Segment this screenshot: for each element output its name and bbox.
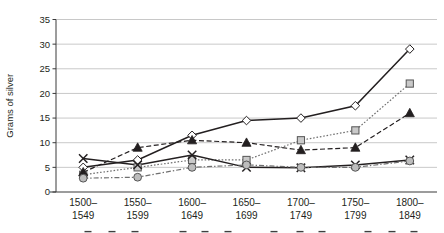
x-tick-label: 1799 (344, 210, 367, 221)
y-tick-label: 5 (45, 162, 50, 173)
x-tick-label: 1700– (287, 197, 315, 208)
marker-square (406, 80, 413, 87)
y-tick-label: 30 (39, 39, 50, 50)
marker-triangle (242, 138, 251, 146)
line-chart: 05101520253035Grams of silver1500–154915… (0, 0, 444, 233)
grid-lines: 05101520253035 (39, 14, 437, 198)
x-tick-label: 1649 (181, 210, 204, 221)
marker-diamond (133, 156, 142, 165)
marker-circle (188, 163, 196, 171)
marker-square (352, 127, 359, 134)
y-axis-title: Grams of silver (4, 74, 15, 138)
chart-container: 05101520253035Grams of silver1500–154915… (0, 0, 444, 233)
x-tick-label: 1549 (72, 210, 95, 221)
x-tick-label: 1550– (124, 197, 152, 208)
marker-diamond (297, 114, 306, 123)
x-tick-label: 1750– (341, 197, 369, 208)
y-tick-label: 15 (39, 112, 50, 123)
marker-circle (351, 163, 359, 171)
marker-square (297, 137, 304, 144)
marker-circle (79, 174, 87, 182)
marker-triangle (351, 143, 360, 151)
x-tick-label: 1749 (290, 210, 313, 221)
y-tick-label: 35 (39, 14, 50, 25)
y-tick-label: 20 (39, 88, 50, 99)
y-tick-label: 25 (39, 63, 50, 74)
y-tick-label: 10 (39, 137, 50, 148)
marker-circle (297, 163, 305, 171)
y-tick-label: 0 (45, 186, 50, 197)
marker-triangle (405, 108, 414, 116)
marker-diamond (242, 116, 251, 125)
x-tick-label: 1600– (178, 197, 206, 208)
x-tick-label: 1500– (69, 197, 97, 208)
x-tick-label: 1849 (399, 210, 422, 221)
x-axis-labels: 1500–15491550–15991600–16491650–16991700… (69, 197, 424, 221)
x-tick-label: 1800– (396, 197, 424, 208)
x-tick-label: 1599 (127, 210, 150, 221)
x-tick-label: 1650– (233, 197, 261, 208)
x-tick-label: 1699 (235, 210, 258, 221)
marker-circle (406, 157, 414, 165)
marker-circle (134, 173, 142, 181)
marker-circle (243, 161, 251, 169)
